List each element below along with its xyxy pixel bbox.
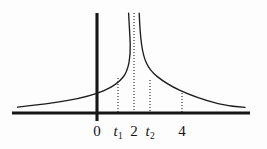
tick-label-0-text: 0 — [93, 123, 101, 139]
tick-label-group: 0 t1 2 t2 4 — [0, 0, 267, 149]
tick-label-4: 4 — [178, 124, 186, 139]
figure-container: 0 t1 2 t2 4 — [0, 0, 267, 149]
tick-label-t2: t2 — [146, 124, 155, 139]
tick-label-t1: t1 — [114, 124, 123, 139]
tick-label-t1-subscript: 1 — [118, 131, 123, 141]
tick-label-2: 2 — [130, 124, 138, 139]
tick-label-2-text: 2 — [130, 123, 138, 139]
tick-label-t2-subscript: 2 — [150, 131, 155, 141]
tick-label-4-text: 4 — [178, 123, 186, 139]
tick-label-0: 0 — [93, 124, 101, 139]
